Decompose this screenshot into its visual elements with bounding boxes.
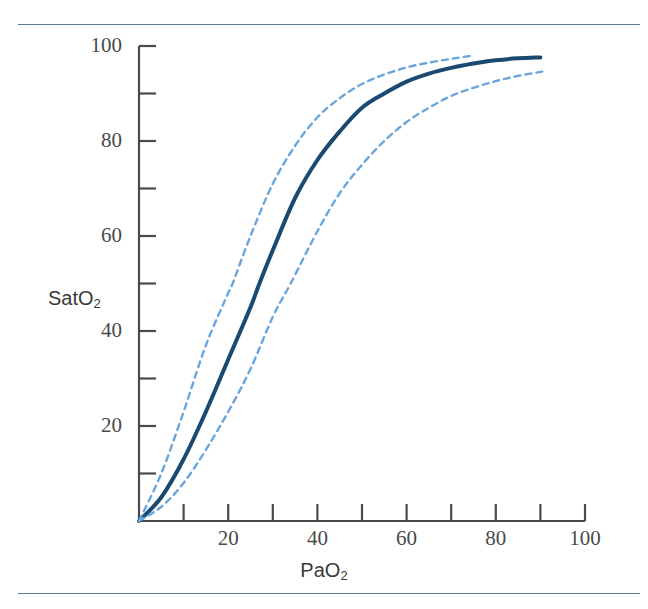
figure-root: 20406080100 20406080100 SatO2 PaO2 (0, 0, 648, 609)
x-axis-title: PaO2 (0, 560, 648, 580)
x-tick-label: 20 (193, 528, 263, 549)
x-tick-label: 80 (461, 528, 531, 549)
y-tick-label: 60 (60, 225, 122, 246)
x-axis-ticks (184, 504, 585, 521)
y-axis-title-subscript: 2 (94, 296, 101, 311)
x-tick-label: 60 (372, 528, 442, 549)
chart-curves (139, 56, 545, 522)
y-tick-label: 100 (60, 35, 122, 56)
y-tick-label: 80 (60, 130, 122, 151)
y-axis-title: SatO2 (48, 288, 101, 308)
y-axis-ticks (139, 46, 156, 474)
curve-right-shifted-curve (139, 71, 545, 521)
y-axis-title-text: SatO (48, 287, 94, 309)
x-tick-label: 100 (550, 528, 620, 549)
x-tick-label: 40 (282, 528, 352, 549)
y-tick-label: 20 (60, 415, 122, 436)
y-tick-label: 40 (60, 320, 122, 341)
x-axis-title-text: PaO (300, 559, 340, 581)
curve-normal-curve (139, 57, 540, 521)
x-axis-title-subscript: 2 (340, 568, 347, 583)
